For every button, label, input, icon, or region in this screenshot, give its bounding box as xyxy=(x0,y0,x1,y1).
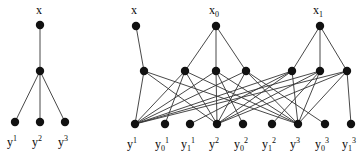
graph-vertex xyxy=(11,118,19,126)
graph-edge xyxy=(292,26,320,71)
right-graph-nodes xyxy=(131,22,355,128)
right-label-x: x xyxy=(131,4,137,16)
right-label-x1: x1 xyxy=(313,4,323,16)
graph-vertex xyxy=(36,21,44,29)
right-label-x0: x0 xyxy=(209,4,219,16)
graph-edge xyxy=(216,26,246,71)
graph-vertex xyxy=(36,67,44,75)
graph-vertex xyxy=(140,67,148,75)
left-label-x: x xyxy=(36,4,42,16)
graph-vertex xyxy=(213,120,221,128)
graph-vertex xyxy=(343,67,351,75)
graph-edge xyxy=(216,71,217,124)
graph-vertex xyxy=(242,67,250,75)
graph-vertex xyxy=(186,120,194,128)
graph-vertex xyxy=(268,120,276,128)
graph-vertex xyxy=(212,22,220,30)
graph-vertex xyxy=(132,22,140,30)
left-label-y3: y3 xyxy=(58,136,68,148)
figure-canvas: xy1y2y3xx0x1y1y01y11y2y02y12y3y03y13 xyxy=(0,0,363,161)
graph-edge xyxy=(185,26,216,71)
right-label-y3: y3 xyxy=(290,138,300,150)
graph-vertex xyxy=(36,118,44,126)
right-label-y13: y13 xyxy=(342,138,356,150)
left-label-y1: y1 xyxy=(7,136,17,148)
right-label-y01: y01 xyxy=(155,138,169,150)
graph-edge xyxy=(135,71,216,124)
graph-vertex xyxy=(239,120,247,128)
right-label-y11: y11 xyxy=(181,138,195,150)
graph-vertex xyxy=(347,120,355,128)
right-label-y1: y1 xyxy=(127,138,137,150)
graph-vertex xyxy=(61,118,69,126)
graph-edge xyxy=(320,26,347,71)
graph-edge xyxy=(190,71,292,124)
graph-vertex xyxy=(212,67,220,75)
graph-vertex xyxy=(131,120,139,128)
graph-edge xyxy=(40,71,65,122)
graph-vertex xyxy=(288,67,296,75)
graph-vertex xyxy=(316,22,324,30)
graph-vertex xyxy=(294,120,302,128)
right-graph-edges xyxy=(135,26,351,124)
right-label-y12: y12 xyxy=(262,138,276,150)
right-label-y02: y02 xyxy=(234,138,248,150)
graph-edge xyxy=(136,26,144,71)
graph-edge xyxy=(347,71,351,124)
graph-vertex xyxy=(161,120,169,128)
graph-vertex xyxy=(321,120,329,128)
right-label-y03: y03 xyxy=(315,138,329,150)
graph-edge xyxy=(15,71,40,122)
graph-vertex xyxy=(181,67,189,75)
graph-vertex xyxy=(316,67,324,75)
left-label-y2: y2 xyxy=(32,136,42,148)
right-label-y2: y2 xyxy=(209,138,219,150)
